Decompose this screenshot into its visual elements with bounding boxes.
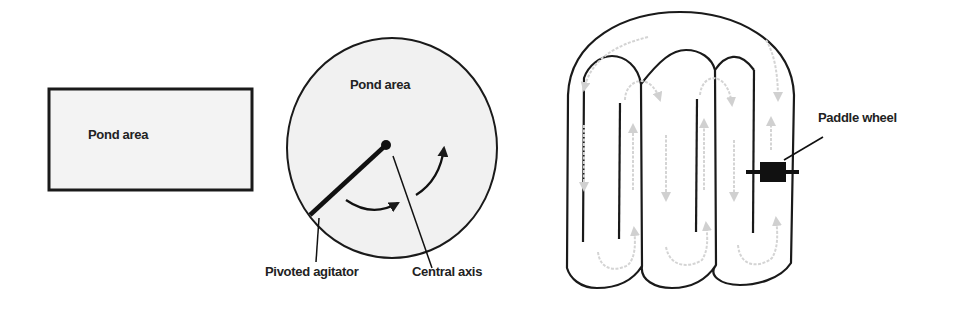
paddle-wheel-leader-line (784, 137, 823, 160)
pond-area-label: Pond area (88, 127, 149, 142)
raceway-inner-right-channel (715, 57, 754, 70)
pond-area-label: Pond area (350, 77, 411, 92)
paddle-wheel-body (760, 162, 786, 182)
central-axis-label: Central axis (412, 264, 482, 279)
circular-pond: Pond area Pivoted agitator Central axis (265, 38, 497, 279)
central-axis-pivot (381, 140, 391, 150)
paddle-wheel-label: Paddle wheel (818, 110, 897, 125)
raceway-baffle-2 (619, 103, 620, 239)
raceway-baffle-4 (753, 70, 754, 233)
raceway-baffle-3 (696, 99, 697, 232)
raceway-outer-wall (567, 12, 794, 288)
diagram-canvas: Pond area Pond area Pivoted agitator Cen… (0, 0, 962, 313)
raceway-pond (567, 12, 794, 288)
pond-rectangle (49, 89, 252, 190)
rectangular-pond: Pond area (49, 89, 252, 190)
flow-arrows (584, 37, 778, 269)
paddle-wheel: Paddle wheel (746, 110, 897, 182)
pivoted-agitator-label: Pivoted agitator (265, 264, 359, 279)
